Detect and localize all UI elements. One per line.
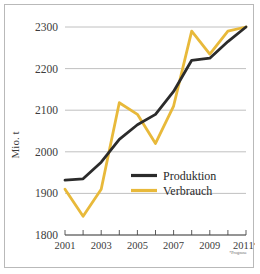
x-axis-tick-labels: 200120032005200720092011* bbox=[55, 240, 256, 251]
x-tick-label: 2003 bbox=[91, 240, 112, 251]
legend-label-produktion: Produktion bbox=[163, 169, 216, 183]
y-tick-label: 1900 bbox=[35, 187, 58, 199]
legend-label-verbrauch: Verbrauch bbox=[163, 184, 212, 198]
x-tick-label: 2007 bbox=[163, 240, 184, 251]
x-axis-ticks bbox=[65, 230, 246, 235]
series-line-verbrauch bbox=[65, 27, 246, 216]
chart-frame: 180019002000210022002300 200120032005200… bbox=[4, 4, 254, 268]
chart-canvas: 180019002000210022002300 200120032005200… bbox=[5, 5, 255, 269]
x-tick-label: 2009 bbox=[199, 240, 220, 251]
y-axis-tick-labels: 180019002000210022002300 bbox=[35, 21, 58, 241]
series-line-produktion bbox=[65, 27, 246, 180]
line-chart-svg: 180019002000210022002300 200120032005200… bbox=[5, 5, 255, 269]
y-tick-label: 2000 bbox=[35, 146, 58, 158]
x-tick-label: 2005 bbox=[127, 240, 148, 251]
y-tick-label: 2100 bbox=[35, 104, 58, 116]
y-tick-label: 2300 bbox=[35, 21, 58, 33]
forecast-footnote: *Prognose bbox=[229, 250, 247, 255]
y-axis-title: Mio. t bbox=[9, 132, 21, 159]
x-tick-label: 2001 bbox=[55, 240, 76, 251]
data-series-group bbox=[65, 27, 246, 216]
y-tick-label: 2200 bbox=[35, 63, 58, 75]
